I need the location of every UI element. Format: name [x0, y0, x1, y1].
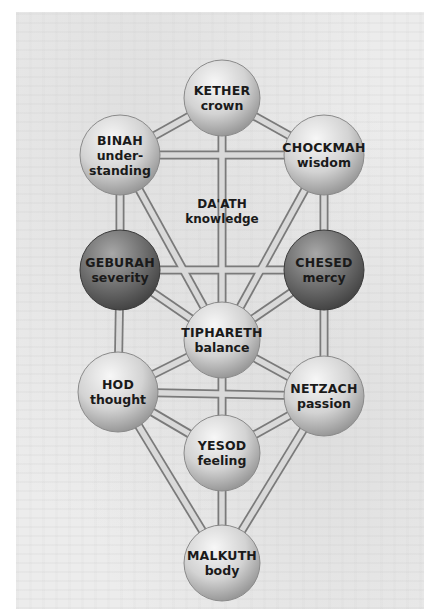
sphere-chesed: [284, 230, 364, 310]
tree-of-life-diagram: [0, 0, 442, 609]
daath-meaning: knowledge: [185, 212, 258, 227]
sphere-yesod: [184, 415, 260, 491]
sphere-hod: [78, 352, 158, 432]
sphere-binah: [80, 115, 160, 195]
sphere-geburah: [80, 230, 160, 310]
sphere-tiphareth: [184, 302, 260, 378]
daath-label: DA'ATH knowledge: [185, 197, 258, 227]
daath-name: DA'ATH: [185, 197, 258, 212]
sphere-kether: [184, 60, 260, 136]
sphere-malkuth: [184, 525, 260, 601]
sphere-chockmah: [284, 115, 364, 195]
sphere-netzach: [284, 356, 364, 436]
